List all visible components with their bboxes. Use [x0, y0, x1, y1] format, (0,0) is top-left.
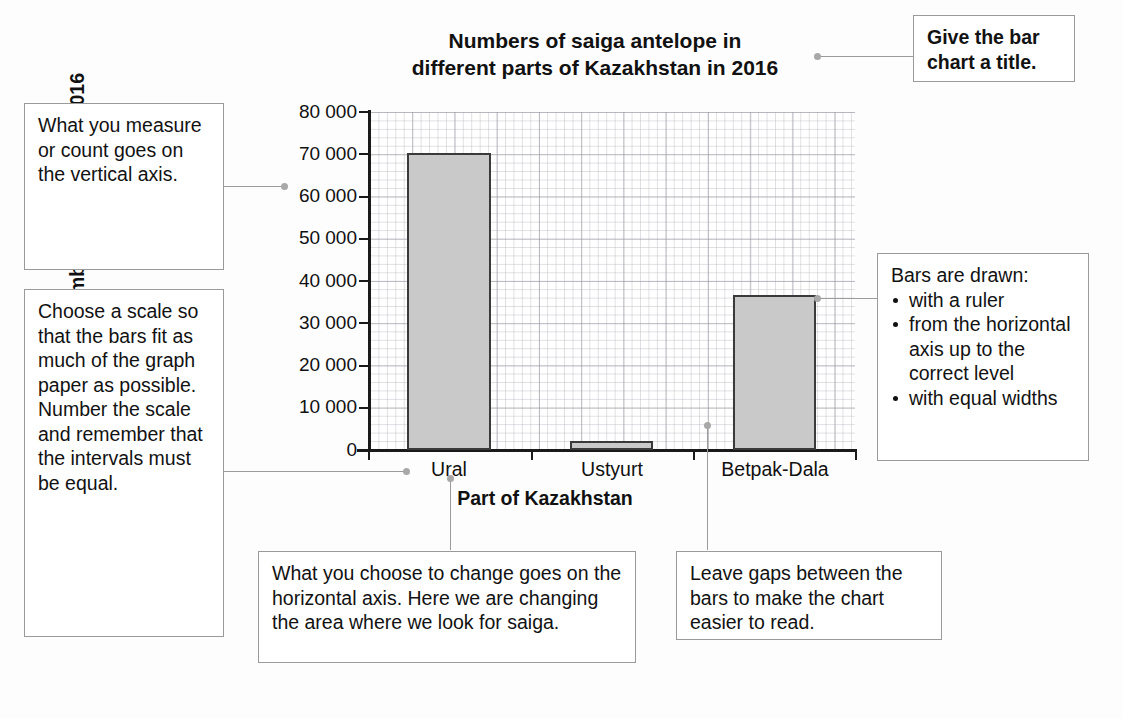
bar-ural — [407, 153, 491, 450]
leader-vertical-axis-note — [224, 186, 284, 187]
y-tick-30000 — [359, 322, 370, 324]
callout-vertical-axis-note-text: What you measure or count goes on the ve… — [38, 113, 212, 187]
y-label-60000: 60 000 — [247, 185, 357, 207]
bars-drawn-bullet-2-text: from the horizontal axis up to the corre… — [909, 313, 1071, 384]
bars-drawn-bullet-1-text: with a ruler — [909, 289, 1004, 311]
y-tick-20000 — [359, 365, 370, 367]
worksheet-page: Numbers of saiga antelope in different p… — [0, 0, 1123, 719]
y-tick-60000 — [359, 196, 370, 198]
chart-title-line1: Numbers of saiga antelope in — [449, 29, 742, 52]
bars-drawn-bullet-1: with a ruler — [891, 288, 1077, 313]
leader-horizontal-axis-note — [450, 478, 451, 550]
leader-gaps-note — [707, 425, 708, 550]
x-tick-1 — [531, 449, 533, 460]
callout-title-note: Give the bar chart a title. — [913, 15, 1075, 82]
y-label-50000: 50 000 — [247, 227, 357, 249]
callout-title-note-text: Give the bar chart a title. — [927, 25, 1063, 74]
bars-drawn-bullet-3-text: with equal widths — [909, 387, 1058, 409]
callout-scale-note-text: Choose a scale so that the bars fit as m… — [38, 299, 212, 496]
y-label-0: 0 — [247, 439, 357, 461]
callout-gaps-note-text: Leave gaps between the bars to make the … — [690, 561, 930, 635]
bullet-point-icon — [893, 298, 898, 303]
leader-dot-bars-drawn-note — [814, 295, 821, 302]
y-label-10000: 10 000 — [247, 396, 357, 418]
x-label-ustyurt: Ustyurt — [581, 458, 643, 481]
y-label-80000: 80 000 — [247, 101, 357, 123]
y-tick-80000 — [359, 111, 370, 113]
x-tick-2 — [693, 449, 695, 460]
y-label-30000: 30 000 — [247, 312, 357, 334]
y-label-40000: 40 000 — [247, 270, 357, 292]
leader-dot-gaps-note — [704, 422, 711, 429]
callout-vertical-axis-note: What you measure or count goes on the ve… — [24, 103, 224, 270]
callout-horizontal-axis-note: What you choose to change goes on the ho… — [258, 551, 636, 663]
bullet-point-icon — [893, 396, 898, 401]
bar-betpak-dala — [733, 295, 816, 450]
x-tick-start — [368, 449, 370, 460]
callout-bars-drawn-heading: Bars are drawn: — [891, 263, 1077, 288]
leader-dot-scale-note — [403, 468, 410, 475]
leader-title-note — [817, 56, 913, 57]
y-tick-10000 — [359, 407, 370, 409]
y-tick-70000 — [359, 153, 370, 155]
bar-ustyurt — [570, 441, 653, 450]
leader-dot-title-note — [814, 53, 821, 60]
bars-drawn-bullet-2: from the horizontal axis up to the corre… — [891, 312, 1077, 386]
x-label-betpak-dala: Betpak-Dala — [721, 458, 828, 481]
leader-scale-note — [224, 471, 406, 472]
callout-scale-note: Choose a scale so that the bars fit as m… — [24, 289, 224, 637]
bars-drawn-bullet-list: with a ruler from the horizontal axis up… — [891, 288, 1077, 411]
leader-dot-vertical-axis-note — [281, 183, 288, 190]
bullet-point-icon — [893, 322, 898, 327]
chart-title: Numbers of saiga antelope in different p… — [360, 28, 830, 82]
x-axis-title: Part of Kazakhstan — [370, 487, 720, 510]
bars-drawn-bullet-3: with equal widths — [891, 386, 1077, 411]
chart-title-line2: different parts of Kazakhstan in 2016 — [412, 56, 778, 79]
leader-dot-horizontal-axis-note — [447, 475, 454, 482]
y-tick-50000 — [359, 238, 370, 240]
y-label-20000: 20 000 — [247, 354, 357, 376]
callout-bars-drawn-note: Bars are drawn: with a ruler from the ho… — [877, 253, 1089, 461]
x-tick-end — [855, 449, 857, 460]
callout-gaps-note: Leave gaps between the bars to make the … — [676, 551, 942, 640]
y-tick-40000 — [359, 280, 370, 282]
y-label-70000: 70 000 — [247, 143, 357, 165]
leader-bars-drawn-note — [817, 298, 877, 299]
callout-horizontal-axis-note-text: What you choose to change goes on the ho… — [272, 561, 624, 635]
